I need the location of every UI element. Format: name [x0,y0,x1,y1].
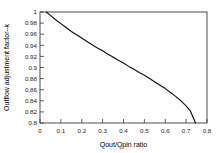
y-axis-tick-labels: 1 0.98 0.96 0.94 0.92 0.9 0.88 0.86 0.84… [25,8,38,126]
y-tick-label: 0.98 [25,19,38,26]
x-axis-title: Qout/Qpin ratio [100,141,148,149]
y-tick-label: 0.84 [25,97,38,104]
x-axis-tick-labels: 0 0.1 0.2 0.3 0.4 0.5 0.6 0.7 0.8 [38,127,212,134]
chart-figure: 1 0.98 0.96 0.94 0.92 0.9 0.88 0.86 0.84… [0,0,219,153]
y-tick-label: 0.92 [25,53,38,60]
x-tick-label: 0 [38,127,42,134]
x-tick-label: 0.4 [119,127,128,134]
x-tick-label: 0.7 [182,127,191,134]
y-tick-label: 0.9 [28,64,37,71]
x-tick-label: 0.8 [203,127,212,134]
y-tick-label: 0.86 [25,86,38,93]
x-tick-label: 0.2 [77,127,86,134]
chart-canvas: 1 0.98 0.96 0.94 0.92 0.9 0.88 0.86 0.84… [0,0,219,153]
x-tick-label: 0.6 [161,127,170,134]
y-tick-label: 0.82 [25,108,38,115]
x-tick-label: 0.3 [98,127,107,134]
y-axis-title: Outflow adjustment factor–k [3,24,11,111]
plot-area-background [40,12,207,123]
y-tick-label: 0.8 [28,119,37,126]
y-tick-label: 0.88 [25,75,38,82]
x-tick-label: 0.1 [57,127,66,134]
y-tick-label: 0.96 [25,30,38,37]
x-tick-label: 0.5 [140,127,149,134]
y-tick-label: 0.94 [25,42,38,49]
y-tick-label: 1 [34,8,38,15]
